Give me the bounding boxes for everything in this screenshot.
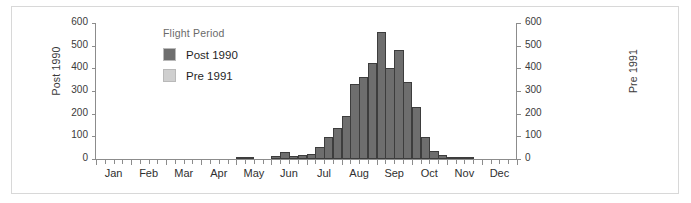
x-axis-tick — [491, 160, 492, 164]
x-axis-month-label: Oct — [421, 167, 438, 179]
x-axis-month-label: Feb — [139, 167, 158, 179]
x-axis-month-label: Sep — [384, 167, 404, 179]
x-axis-tick — [333, 160, 334, 164]
legend-item-label: Post 1990 — [186, 49, 238, 61]
x-axis-tick — [263, 160, 264, 164]
x-axis-tick — [473, 160, 474, 164]
x-axis-tick — [438, 160, 439, 164]
x-axis-tick — [421, 160, 422, 164]
x-axis-tick — [131, 160, 132, 165]
left-axis-tick-label: 300 — [71, 84, 88, 95]
x-axis-month-label: Jan — [105, 167, 123, 179]
x-axis-tick — [114, 160, 115, 164]
x-axis-month-label: Nov — [455, 167, 475, 179]
x-axis-month-label: May — [243, 167, 264, 179]
tick-mark — [517, 23, 521, 24]
legend-item: Pre 1991 — [163, 69, 238, 82]
x-axis-tick — [254, 160, 255, 164]
x-axis-tick — [499, 160, 500, 164]
x-axis-tick — [464, 160, 465, 164]
x-axis-tick — [385, 160, 386, 164]
x-axis-tick — [280, 160, 281, 164]
bar — [245, 157, 254, 159]
x-axis-tick — [394, 160, 395, 164]
tick-mark — [517, 68, 521, 69]
legend-title: Flight Period — [163, 27, 238, 39]
right-axis-tick-label: 300 — [525, 84, 542, 95]
right-axis-title: Pre 1991 — [627, 11, 639, 131]
x-axis-tick — [166, 160, 167, 165]
x-axis-tick — [456, 160, 457, 164]
x-axis-tick — [482, 160, 483, 165]
x-axis-tick — [210, 160, 211, 164]
right-axis-tick-label: 400 — [525, 61, 542, 72]
x-axis-tick — [175, 160, 176, 164]
bar-series-post-1990 — [96, 23, 517, 159]
x-axis-tick — [219, 160, 220, 164]
left-axis-title: Post 1990 — [50, 11, 62, 131]
x-axis-tick — [377, 160, 378, 165]
x-axis-tick — [324, 160, 325, 164]
tick-mark — [517, 91, 521, 92]
x-axis-month-label: Apr — [210, 167, 227, 179]
left-axis-tick-label: 100 — [71, 129, 88, 140]
x-axis-tick — [122, 160, 123, 164]
x-axis-tick — [315, 160, 316, 164]
x-axis-month-label: Mar — [174, 167, 193, 179]
tick-mark — [517, 136, 521, 137]
x-axis-tick — [140, 160, 141, 164]
x-axis-tick — [236, 160, 237, 165]
legend-swatch — [163, 69, 176, 82]
x-axis-tick — [149, 160, 150, 164]
legend-swatch — [163, 48, 176, 61]
right-axis-tick-label: 500 — [525, 39, 542, 50]
x-axis-tick — [184, 160, 185, 164]
x-axis-tick — [289, 160, 290, 164]
left-axis-tick-label: 0 — [82, 152, 88, 163]
x-axis-tick — [105, 160, 106, 164]
x-axis-tick — [447, 160, 448, 165]
right-axis-tick-label: 200 — [525, 107, 542, 118]
right-axis-tick-label: 0 — [525, 152, 531, 163]
x-axis-tick — [368, 160, 369, 164]
x-axis-tick — [245, 160, 246, 164]
left-axis-tick-label: 500 — [71, 39, 88, 50]
x-axis-tick — [342, 160, 343, 165]
x-axis-tick — [271, 160, 272, 165]
x-axis-month-label: Dec — [490, 167, 510, 179]
x-axis-tick — [359, 160, 360, 164]
x-axis-tick — [412, 160, 413, 165]
x-axis-tick — [192, 160, 193, 164]
x-axis-tick — [307, 160, 308, 165]
x-axis-tick — [517, 160, 518, 165]
left-axis-tick-label: 600 — [71, 16, 88, 27]
right-axis-tick-label: 100 — [525, 129, 542, 140]
x-axis-tick — [157, 160, 158, 164]
x-axis-month-label: Jul — [317, 167, 331, 179]
tick-mark — [517, 114, 521, 115]
x-axis-tick — [508, 160, 509, 164]
x-axis-tick — [350, 160, 351, 164]
legend: Flight Period Post 1990Pre 1991 — [163, 27, 238, 90]
legend-item-label: Pre 1991 — [186, 70, 233, 82]
legend-items: Post 1990Pre 1991 — [163, 48, 238, 82]
x-axis-tick — [403, 160, 404, 164]
x-axis-tick — [96, 160, 97, 165]
x-axis-tick — [298, 160, 299, 164]
left-axis-tick-label: 400 — [71, 61, 88, 72]
x-axis: JanFebMarAprMayJunJulAugSepOctNovDec — [96, 160, 517, 186]
x-axis-month-label: Jun — [280, 167, 298, 179]
right-axis-tick-label: 600 — [525, 16, 542, 27]
bar — [464, 157, 473, 159]
x-axis-tick — [201, 160, 202, 165]
x-axis-tick — [228, 160, 229, 164]
chart-figure: Post 1990 Pre 1991 0100200300400500600 0… — [11, 6, 679, 194]
left-axis-tick-label: 200 — [71, 107, 88, 118]
x-axis-tick — [429, 160, 430, 164]
legend-item: Post 1990 — [163, 48, 238, 61]
x-axis-month-label: Aug — [349, 167, 369, 179]
tick-mark — [517, 46, 521, 47]
